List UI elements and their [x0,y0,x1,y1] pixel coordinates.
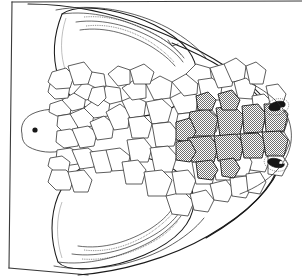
figure-root [0,0,302,277]
illustration-canvas [0,0,302,277]
nostril [32,127,37,132]
scale-cell-shaded [214,134,244,161]
